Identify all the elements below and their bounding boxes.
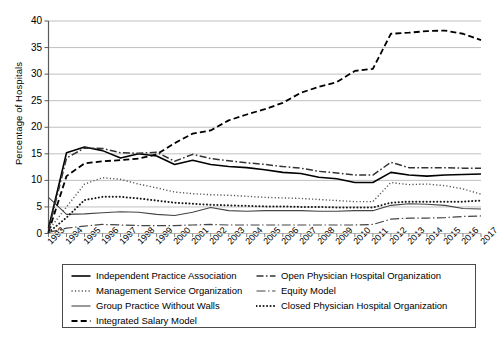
legend-item[interactable]: Open Physician Hospital Organization [256,269,441,282]
legend-label: Group Practice Without Walls [96,301,220,311]
legend-line-swatch-icon [256,271,276,281]
legend-line-swatch-icon [71,286,91,296]
axis-lines [45,21,482,237]
legend-label: Closed Physician Hospital Organization [281,301,447,311]
legend-line-swatch-icon [71,271,91,281]
series-line-4 [49,148,482,230]
series-line-2 [49,197,482,215]
legend-item[interactable]: Independent Practice Association [71,269,236,282]
legend-label: Integrated Salary Model [96,316,197,326]
legend-label: Independent Practice Association [96,271,236,281]
series-lines [49,31,482,233]
series-line-5 [49,216,482,232]
legend-item[interactable]: Closed Physician Hospital Organization [256,299,447,312]
legend-item[interactable]: Integrated Salary Model [71,315,197,328]
legend-label: Management Service Organization [96,286,242,296]
legend-line-swatch-icon [256,301,276,311]
legend-item[interactable]: Management Service Organization [71,284,242,297]
legend-line-swatch-icon [71,301,91,311]
legend-line-swatch-icon [256,286,276,296]
legend-label: Open Physician Hospital Organization [281,271,441,281]
series-line-0 [49,147,482,228]
legend-label: Equity Model [281,286,336,296]
series-line-6 [49,197,482,233]
legend-item[interactable]: Equity Model [256,284,336,297]
legend-line-swatch-icon [71,316,91,326]
legend: Independent Practice AssociationManageme… [62,264,476,328]
legend-item[interactable]: Group Practice Without Walls [71,299,220,312]
